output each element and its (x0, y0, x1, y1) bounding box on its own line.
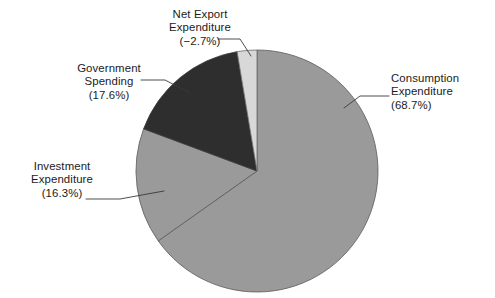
pie-label-investment-value: (16.3%) (2, 187, 122, 200)
pie-label-government-spending: Government Spending (17.6%) (50, 62, 168, 102)
pie-label-net-export-line1: Net Export (139, 8, 261, 21)
pie-label-consumption-expenditure: Consumption Expenditure (68.7%) (391, 72, 495, 112)
pie-label-net-export-value: (−2.7%) (139, 35, 261, 48)
pie-label-net-export-expenditure: Net Export Expenditure (−2.7%) (139, 8, 261, 48)
pie-label-net-export-line2: Expenditure (139, 21, 261, 34)
pie-label-investment-expenditure: Investment Expenditure (16.3%) (2, 160, 122, 200)
pie-label-consumption-value: (68.7%) (391, 99, 495, 112)
pie-chart-figure: Net Export Expenditure (−2.7%) Governmen… (0, 0, 495, 298)
pie-label-government-line1: Government (50, 62, 168, 75)
pie-label-government-value: (17.6%) (50, 89, 168, 102)
pie-slices (136, 50, 378, 292)
pie-label-government-line2: Spending (50, 75, 168, 88)
pie-label-consumption-line1: Consumption (391, 72, 495, 85)
pie-label-investment-line1: Investment (2, 160, 122, 173)
pie-label-consumption-line2: Expenditure (391, 85, 495, 98)
pie-label-investment-line2: Expenditure (2, 173, 122, 186)
